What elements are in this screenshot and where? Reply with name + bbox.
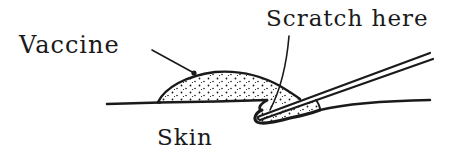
skin-line-right [320, 100, 430, 110]
vaccine-leader-line [152, 50, 194, 73]
vaccination-diagram: Vaccine Scratch here Skin [0, 0, 466, 161]
scratch-here-label: Scratch here [266, 5, 429, 31]
skin-surface-fold [158, 100, 268, 110]
vaccine-leader-dot [191, 70, 196, 75]
vaccine-label: Vaccine [19, 31, 120, 59]
skin-label: Skin [157, 124, 213, 150]
skin-line-left [107, 103, 160, 105]
